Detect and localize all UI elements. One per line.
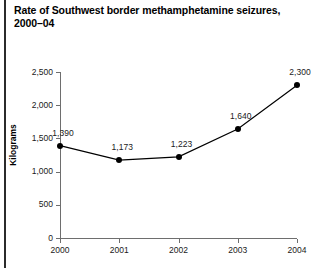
data-point-marker bbox=[57, 143, 63, 149]
data-point-marker bbox=[235, 126, 241, 132]
data-point-marker bbox=[176, 154, 182, 160]
data-point-value-label: 1,640 bbox=[221, 112, 261, 121]
data-point-value-label: 1,223 bbox=[162, 140, 202, 149]
data-point-value-label: 1,390 bbox=[43, 129, 83, 138]
data-point-value-label: 1,173 bbox=[102, 143, 142, 152]
chart-plot-area: Kilograms 05001,0001,5002,0002,500 20002… bbox=[0, 0, 318, 268]
data-point-value-label: 2,300 bbox=[280, 68, 318, 77]
